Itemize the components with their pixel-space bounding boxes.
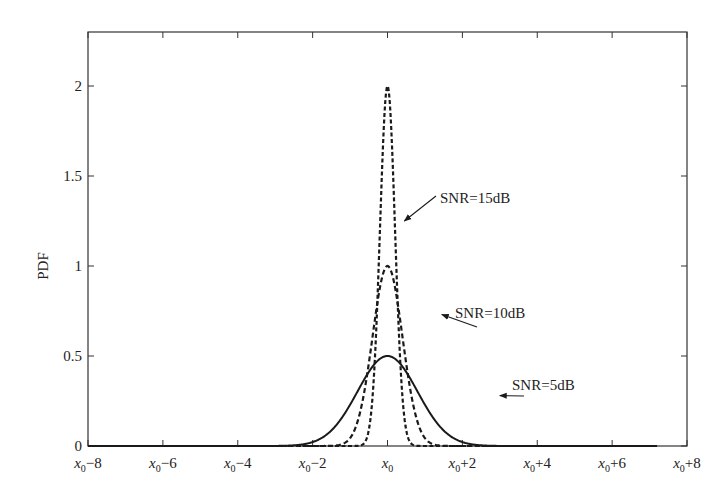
x-tick-label: x0+2 (448, 455, 477, 474)
x-axis-ticks: x0−8x0−6x0−4x0−2x0x0+2x0+4x0+6x0+8 (73, 32, 701, 474)
annotation-label: SNR=10dB (455, 305, 525, 321)
x-tick-label: x0+4 (522, 455, 551, 474)
x-tick-label: x0+8 (672, 455, 701, 474)
y-tick-label: 1.5 (63, 168, 82, 184)
y-axis-title: PDF (35, 252, 51, 280)
annotation-label: SNR=5dB (512, 377, 575, 393)
y-tick-label: 0 (75, 438, 83, 454)
y-tick-label: 2 (75, 78, 83, 94)
x-tick-label: x0+6 (597, 455, 626, 474)
x-tick-label: x0−2 (298, 455, 327, 474)
plot-border (88, 32, 687, 446)
figure-caption-clipped (110, 488, 650, 504)
curve-snr10db (88, 266, 657, 446)
annotation-label: SNR=15dB (440, 190, 510, 206)
x-tick-label: x0−4 (223, 455, 252, 474)
y-axis-ticks: 00.511.52 (63, 78, 687, 454)
annotations: SNR=15dBSNR=10dBSNR=5dB (404, 190, 574, 396)
y-tick-label: 1 (75, 258, 83, 274)
y-tick-label: 0.5 (63, 348, 82, 364)
x-tick-label: x0−6 (148, 455, 177, 474)
plot-frame (88, 32, 687, 446)
x-tick-label: x0−8 (73, 455, 102, 474)
pdf-chart: x0−8x0−6x0−4x0−2x0x0+2x0+4x0+6x0+8 00.51… (0, 0, 728, 504)
annotation-arrow-icon (404, 196, 436, 221)
x-tick-label: x0 (381, 455, 394, 474)
